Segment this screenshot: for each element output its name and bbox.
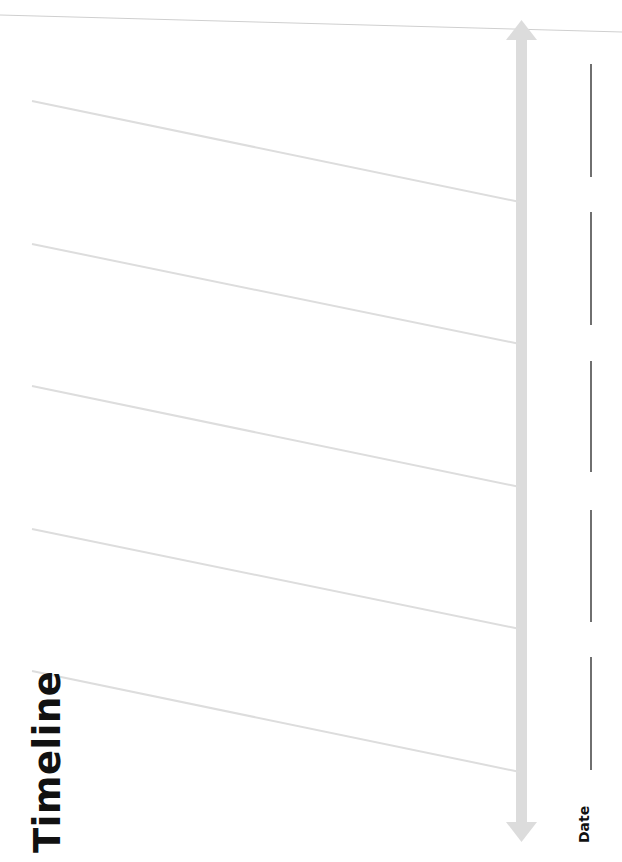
timeline-arrow: [506, 20, 537, 842]
entry-line-4[interactable]: [32, 529, 520, 629]
entry-line-3[interactable]: [32, 386, 520, 487]
date-label: Date: [576, 806, 592, 843]
entry-line-1[interactable]: [32, 101, 520, 202]
arrow-shaft: [516, 34, 527, 826]
timeline-worksheet: [0, 0, 622, 862]
arrow-down-icon: [506, 822, 537, 842]
page-title: Timeline: [26, 671, 69, 853]
entry-lines: [32, 101, 520, 772]
entry-line-5[interactable]: [32, 671, 520, 772]
entry-line-2[interactable]: [32, 244, 520, 344]
